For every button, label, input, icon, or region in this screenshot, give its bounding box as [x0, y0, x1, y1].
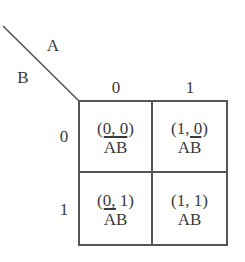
column-header-0: 0 [79, 79, 153, 96]
term-letter-a-negated: A [104, 138, 116, 157]
karnaugh-map-grid: (0, 0) AB (1, 0) AB (0, 1) AB (1, 1) AB [78, 100, 228, 246]
term-letter-a: A [178, 138, 190, 157]
column-variable-label: A [45, 37, 61, 54]
cell-minterm: AB [104, 210, 128, 229]
term-letter-b: B [116, 210, 127, 229]
kmap-cell-a1-b0: (1, 0) AB [153, 102, 226, 173]
row-header-1: 1 [56, 201, 72, 218]
column-header-1: 1 [153, 79, 227, 96]
term-letter-a: A [178, 210, 190, 229]
cell-minterm: AB [178, 138, 202, 157]
cell-coordinate: (1, 0) [171, 117, 208, 138]
cell-coordinate: (1, 1) [171, 189, 208, 210]
cell-coordinate: (0, 1) [97, 189, 134, 210]
cell-coordinate: (0, 0) [97, 117, 134, 138]
term-letter-b: B [190, 210, 201, 229]
term-letter-b-negated: B [190, 138, 201, 157]
kmap-cell-a0-b1: (0, 1) AB [80, 173, 153, 244]
row-variable-label: B [15, 69, 31, 86]
term-letter-b-negated: B [116, 138, 127, 157]
cell-minterm: AB [178, 210, 202, 229]
kmap-cell-a0-b0: (0, 0) AB [80, 102, 153, 173]
kmap-cell-a1-b1: (1, 1) AB [153, 173, 226, 244]
cell-minterm: AB [104, 138, 128, 157]
row-header-0: 0 [56, 128, 72, 145]
term-letter-a-negated: A [104, 210, 116, 229]
